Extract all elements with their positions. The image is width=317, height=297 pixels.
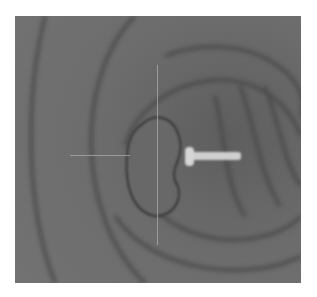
arrow-icon <box>15 16 301 283</box>
endoscopy-image <box>15 16 301 283</box>
